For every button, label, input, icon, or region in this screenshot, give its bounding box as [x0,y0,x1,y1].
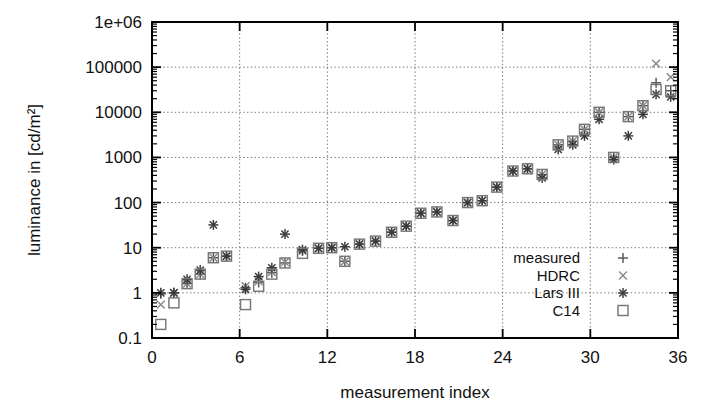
data-point [327,243,337,253]
y-tick-label: 1 [133,284,142,303]
x-tick-label: 0 [147,348,156,367]
y-tick-label: 10 [123,239,142,258]
y-axis-label: luminance in [cd/m²] [25,104,44,256]
data-point [432,207,442,217]
data-point [568,140,578,150]
data-point [537,173,547,183]
data-point [241,284,251,294]
data-point [623,131,633,141]
legend-label-c14: C14 [552,302,580,319]
legend-label-lars-iii: Lars III [534,284,580,301]
figure: 0.11101001000100001000001e+0606121824303… [0,0,702,409]
data-point [463,198,473,208]
x-tick-label: 30 [581,348,600,367]
data-point [280,229,290,239]
x-tick-label: 12 [318,348,337,367]
x-tick-label: 18 [406,348,425,367]
x-tick-label: 6 [235,348,244,367]
y-tick-label: 100 [114,194,142,213]
data-point [387,227,397,237]
data-point [523,164,533,174]
data-point [448,216,458,226]
data-point [354,239,364,249]
data-point [195,265,205,275]
data-point [371,236,381,246]
y-tick-label: 0.1 [118,329,142,348]
data-point [508,166,518,176]
data-point [314,243,324,253]
y-tick-label: 1e+06 [94,13,142,32]
data-point [416,208,426,218]
data-point [666,92,676,102]
y-tick-label: 100000 [85,58,142,77]
data-point [169,288,179,298]
x-tick-label: 36 [669,348,688,367]
data-point [340,242,350,252]
data-point [297,245,307,255]
data-point [208,220,218,230]
data-point [492,182,502,192]
x-axis-label: measurement index [340,383,490,402]
data-point [594,114,604,124]
data-point [254,272,264,282]
legend-label-measured: measured [513,249,580,266]
data-point [267,263,277,273]
legend-label-hdrc: HDRC [537,267,580,284]
data-point [401,221,411,231]
scatter-plot: 0.11101001000100001000001e+0606121824303… [0,0,702,409]
y-tick-label: 10000 [95,103,142,122]
data-point [579,131,589,141]
data-point [477,196,487,206]
y-tick-label: 1000 [104,148,142,167]
x-tick-label: 24 [493,348,512,367]
data-point [222,251,232,261]
legend-marker-lars-iii [618,288,628,298]
